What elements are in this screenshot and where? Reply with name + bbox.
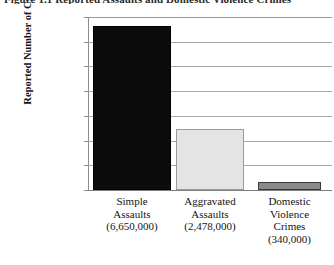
plot-area bbox=[88, 17, 332, 190]
category-name-line: Crimes bbox=[242, 220, 334, 233]
x-axis-category-label: DomesticViolenceCrimes(340,000) bbox=[242, 195, 334, 245]
figure-caption: Figure 1.1 Reported Assaults and Domesti… bbox=[4, 0, 304, 4]
bar bbox=[176, 129, 244, 190]
gridline bbox=[88, 17, 332, 18]
x-axis-line bbox=[88, 190, 332, 191]
bar bbox=[93, 26, 171, 190]
category-name-line: Domestic bbox=[242, 195, 334, 208]
bar bbox=[258, 182, 321, 190]
y-axis-title: Reported Number of Crimes bbox=[22, 0, 33, 126]
category-value-label: (340,000) bbox=[242, 233, 334, 246]
category-name-line: Violence bbox=[242, 208, 334, 221]
